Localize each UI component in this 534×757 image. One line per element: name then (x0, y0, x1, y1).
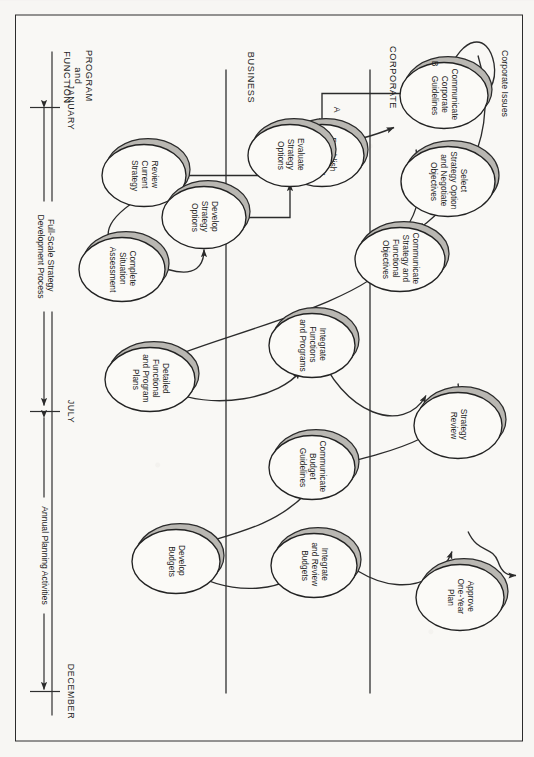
timeline-label-december: DECEMBER (66, 663, 76, 718)
node-complete-situation-assessment[interactable]: Complete Situation Assessment (79, 231, 169, 301)
diagram-frame: Communicate Corporate Guidelines Select … (15, 14, 523, 741)
annotation-corporate-issues: Corporate Issues (500, 50, 510, 118)
node-communicate-budget-guidelines[interactable]: Communicate Budget Guidelines (269, 429, 359, 499)
process-diagram: Communicate Corporate Guidelines Select … (14, 15, 522, 742)
lane-label-business: BUSINESS (246, 51, 256, 102)
node-label: Evaluate Strategy Options (276, 138, 306, 173)
svg-text:Full-Scale Strategy: Full-Scale Strategy Development Process (36, 214, 56, 298)
timeline-label-january: JANUARY (66, 84, 76, 130)
timeline-span-annual-planning-text: Annual Planning Activities (40, 506, 50, 604)
node-integrate-review-budgets[interactable]: Integrate and Review Budgets (271, 527, 361, 597)
node-communicate-strategy-functional-objectives[interactable]: Communicate Strategy and Functional Obje… (355, 221, 449, 291)
timeline: JANUARY JULY DECEMBER Full-Scale Strateg… (30, 51, 76, 719)
node-label: Develop Budgets (167, 544, 187, 577)
node-strategy-review[interactable]: Strategy Review (414, 386, 506, 458)
node-integrate-functions-programs[interactable]: Integrate Functions and Programs (269, 307, 359, 377)
node-label: Communicate Corporate Guidelines (430, 68, 460, 122)
node-label: Communicate Strategy and Functional Obje… (381, 232, 421, 286)
scanned-page: Communicate Corporate Guidelines Select … (0, 0, 534, 757)
timeline-label-july: JULY (66, 399, 76, 423)
edge-label-b: B (430, 60, 440, 66)
node-approve-one-year-plan[interactable]: Approve One-Year Plan (416, 558, 508, 630)
diagram-rotor: Communicate Corporate Guidelines Select … (0, 0, 534, 757)
node-label: Complete Situation Assessment (108, 246, 138, 292)
node-label: Review Current Strategy (130, 159, 160, 191)
node-label: Strategy Review (449, 408, 469, 442)
edge-label-a: A (332, 106, 342, 112)
lane-label-corporate: CORPORATE (388, 46, 398, 109)
node-communicate-corporate-guidelines[interactable]: Communicate Corporate Guidelines (400, 56, 492, 128)
node-label: Develop Strategy Options (190, 200, 220, 234)
node-develop-budgets[interactable]: Develop Budgets (132, 523, 224, 593)
edge-situation-assessment-to-develop-options (168, 249, 204, 272)
timeline-span-label-annual-planning: Annual Planning Activities (38, 497, 51, 613)
node-detailed-functional-program-plans[interactable]: Detailed Functional and Program Plans (105, 341, 199, 411)
timeline-span-label-full-scale-strategy: Full-Scale Strategy Development Process (33, 201, 56, 311)
